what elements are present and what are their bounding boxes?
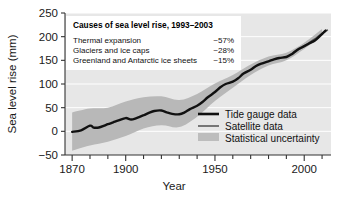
y-tick-label: 100 <box>39 78 58 90</box>
y-tick-label: 250 <box>39 7 58 19</box>
x-axis-tick-labels: 1870190019502000 <box>59 163 317 175</box>
y-tick-label: −50 <box>38 149 58 161</box>
annotation-box: Causes of sea level rise, 1993–2003 Ther… <box>66 16 241 70</box>
annotation-row-value-0: ~57% <box>213 36 234 45</box>
legend-label-statistical-uncertainty: Statistical uncertainty <box>225 133 320 144</box>
x-axis-ticks <box>72 155 322 161</box>
y-axis-title: Sea level rise (mm) <box>6 34 18 133</box>
x-tick-label: 2000 <box>291 163 317 175</box>
annotation-row-label-1: Glaciers and ice caps <box>73 46 149 55</box>
legend-marker-statistical-uncertainty <box>198 133 219 141</box>
annotation-row-value-1: ~28% <box>213 46 234 55</box>
x-axis-title: Year <box>162 180 185 192</box>
y-axis-tick-labels: −50050100150200250 <box>38 7 58 161</box>
sea-level-rise-chart: −50050100150200250 1870190019502000 Year… <box>0 0 346 200</box>
y-tick-label: 0 <box>52 125 58 137</box>
y-tick-label: 150 <box>39 54 58 66</box>
annotation-row-label-0: Thermal expansion <box>73 36 141 45</box>
legend-label-satellite-data: Satellite data <box>225 121 283 132</box>
chart-svg: −50050100150200250 1870190019502000 Year… <box>0 0 346 200</box>
x-tick-label: 1870 <box>59 163 85 175</box>
annotation-box-title: Causes of sea level rise, 1993–2003 <box>73 20 213 30</box>
legend-label-tide-gauge-data: Tide gauge data <box>225 109 297 120</box>
y-tick-label: 50 <box>45 102 58 114</box>
y-axis-ticks <box>61 13 65 155</box>
annotation-row-value-2: ~15% <box>213 56 234 65</box>
x-tick-label: 1900 <box>113 163 139 175</box>
y-tick-label: 200 <box>39 31 58 43</box>
annotation-row-label-2: Greenland and Antarctic ice sheets <box>73 56 197 65</box>
x-tick-label: 1950 <box>202 163 228 175</box>
